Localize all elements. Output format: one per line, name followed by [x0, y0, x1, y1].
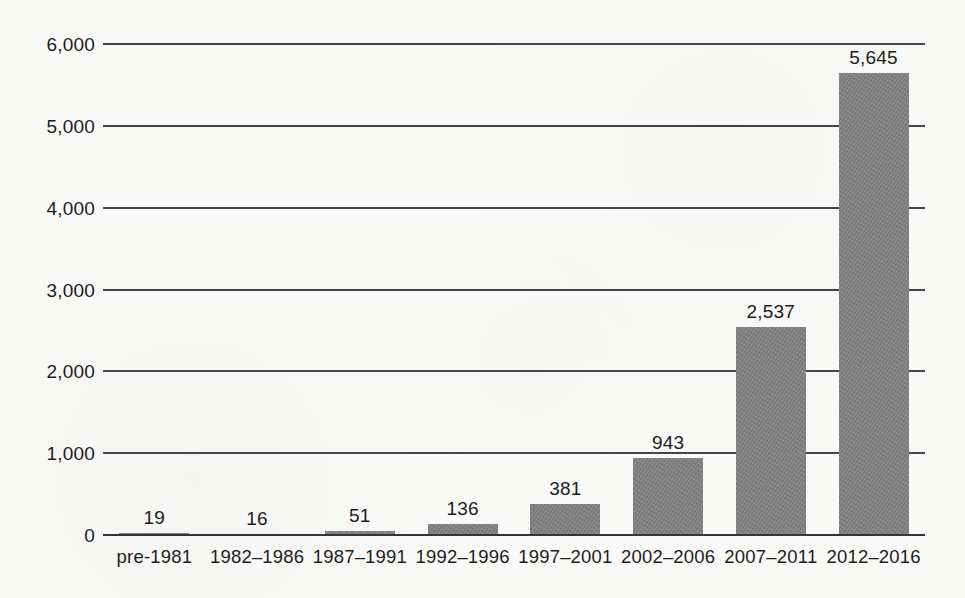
plot-area: 1916511363819432,5375,645 [103, 44, 925, 535]
y-axis-tick-label: 1,000 [0, 444, 95, 463]
x-axis-category-label: 1982–1986 [206, 546, 309, 568]
x-axis-category-label: 2012–2016 [822, 546, 925, 568]
bar-value-label: 381 [549, 478, 581, 500]
y-axis-tick-label: 3,000 [0, 280, 95, 299]
bar-slot: 19 [103, 507, 206, 535]
x-axis-category-label: 2007–2011 [720, 546, 823, 568]
bar-slot: 943 [617, 432, 720, 535]
y-axis-tick-label: 5,000 [0, 116, 95, 135]
y-axis-tick-label: 6,000 [0, 35, 95, 54]
bar-slot: 16 [206, 508, 309, 535]
y-axis-tick-label: 4,000 [0, 198, 95, 217]
bar-slot: 51 [309, 505, 412, 535]
bar-value-label: 2,537 [747, 301, 796, 323]
bar-value-label: 16 [246, 508, 268, 530]
bar-value-label: 19 [144, 507, 166, 529]
bar-slot: 381 [514, 478, 617, 535]
bar-value-label: 943 [652, 432, 684, 454]
bars-group: 1916511363819432,5375,645 [103, 44, 925, 535]
bar [839, 73, 909, 535]
y-axis: 01,0002,0003,0004,0005,0006,000 [0, 0, 95, 598]
bar-slot: 2,537 [720, 301, 823, 535]
bar-value-label: 51 [349, 505, 371, 527]
x-axis-category-label: 1987–1991 [309, 546, 412, 568]
x-axis-category-label: 1992–1996 [411, 546, 514, 568]
x-axis: pre-19811982–19861987–19911992–19961997–… [103, 546, 925, 568]
bar [736, 327, 806, 535]
x-axis-category-label: 2002–2006 [617, 546, 720, 568]
bar-value-label: 136 [446, 498, 478, 520]
bar [633, 458, 703, 535]
y-axis-tick-label: 0 [0, 526, 95, 545]
bar-chart-figure: 1916511363819432,5375,645 01,0002,0003,0… [0, 0, 965, 598]
bar-slot: 136 [411, 498, 514, 535]
bar [530, 504, 600, 535]
bar-value-label: 5,645 [849, 47, 898, 69]
bar-slot: 5,645 [822, 47, 925, 535]
x-axis-line [103, 534, 925, 536]
x-axis-category-label: 1997–2001 [514, 546, 617, 568]
x-axis-category-label: pre-1981 [103, 546, 206, 568]
y-axis-tick-label: 2,000 [0, 362, 95, 381]
